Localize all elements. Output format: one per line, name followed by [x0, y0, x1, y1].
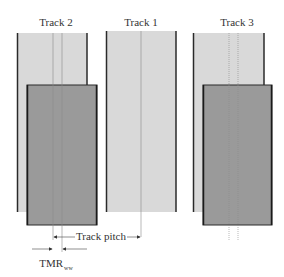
track-2 [17, 33, 97, 252]
track-3-label: Track 3 [220, 17, 254, 28]
track-2-label: Track 2 [39, 17, 73, 28]
track-3-read-head [203, 85, 272, 225]
track-1-label: Track 1 [124, 17, 158, 28]
track-1 [106, 31, 176, 237]
track-3 [193, 33, 272, 240]
track-diagram [0, 0, 284, 277]
tmr-label: TMRww [39, 258, 73, 271]
tmr-label-subscript: ww [64, 265, 73, 271]
track-pitch-label: Track pitch [75, 231, 127, 242]
tmr-label-main: TMR [39, 257, 63, 269]
